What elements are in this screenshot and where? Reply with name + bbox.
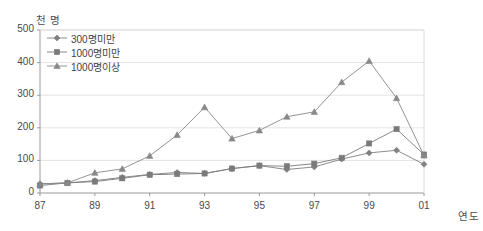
y-tick-label: 300: [8, 88, 34, 99]
y-tick-label: 400: [8, 56, 34, 67]
data-point-marker: [229, 166, 234, 171]
data-point-marker: [257, 163, 262, 168]
data-point-marker: [394, 147, 400, 153]
data-point-marker: [366, 58, 372, 64]
x-tick-label: 01: [412, 200, 436, 211]
data-point-marker: [421, 161, 427, 167]
line-chart-plot: [0, 0, 483, 231]
data-point-marker: [92, 179, 97, 184]
x-tick-label: 87: [28, 200, 52, 211]
data-point-marker: [202, 171, 207, 176]
data-point-marker: [284, 164, 289, 169]
data-point-marker: [366, 150, 372, 156]
y-tick-label: 0: [8, 186, 34, 197]
data-point-marker: [394, 127, 399, 132]
y-tick-label: 100: [8, 153, 34, 164]
data-point-marker: [201, 104, 207, 110]
x-tick-label: 97: [302, 200, 326, 211]
y-tick-label: 200: [8, 121, 34, 132]
data-point-marker: [367, 141, 372, 146]
x-tick-label: 99: [357, 200, 381, 211]
data-point-marker: [119, 166, 125, 172]
x-tick-label: 95: [247, 200, 271, 211]
data-point-marker: [312, 161, 317, 166]
x-tick-label: 89: [83, 200, 107, 211]
data-point-marker: [175, 171, 180, 176]
data-point-marker: [339, 79, 345, 85]
y-tick-label: 500: [8, 23, 34, 34]
data-point-marker: [339, 155, 344, 160]
chart-container: 천 명 연도 0100200300400500 8789919395979901…: [0, 0, 483, 231]
data-point-marker: [147, 153, 153, 159]
data-point-marker: [147, 172, 152, 177]
data-point-marker: [120, 176, 125, 181]
x-tick-label: 91: [138, 200, 162, 211]
x-tick-label: 93: [193, 200, 217, 211]
